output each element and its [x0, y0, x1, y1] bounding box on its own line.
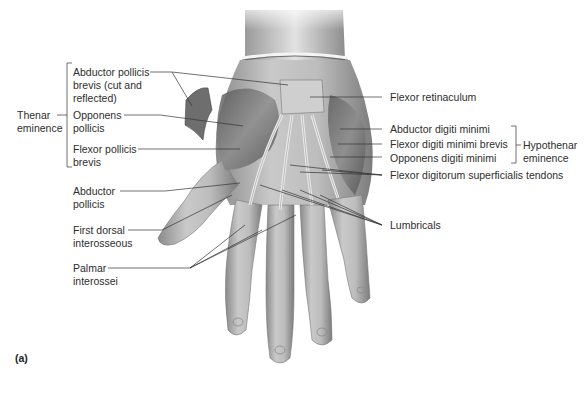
- thumb: [158, 160, 238, 245]
- ring-finger: [300, 205, 332, 345]
- panel-label: (a): [15, 352, 28, 364]
- label-lumbricals: Lumbricals: [390, 219, 441, 232]
- label-opponens-digiti-minimi: Opponens digiti minimi: [390, 152, 496, 165]
- label-abductor-digiti-minimi: Abductor digiti minimi: [390, 123, 490, 136]
- label-palmar-interossei: Palmar interossei: [73, 262, 118, 288]
- index-finger: [225, 200, 262, 335]
- label-hypothenar-eminence: Hypothenar eminence: [523, 139, 577, 165]
- label-thenar-eminence: Thenar eminence: [17, 109, 63, 135]
- label-opponens-pollicis: Opponens pollicis: [73, 109, 121, 135]
- label-abductor-pollicis: Abductor pollicis: [73, 185, 115, 211]
- label-first-dorsal-interosseous: First dorsal interosseous: [73, 224, 133, 250]
- label-flexor-pollicis-brevis: Flexor pollicis brevis: [73, 143, 137, 169]
- middle-finger: [266, 205, 294, 363]
- label-flexor-digitorum-superficialis-tendons: Flexor digitorum superficialis tendons: [390, 169, 563, 182]
- label-flexor-digiti-minimi-brevis: Flexor digiti minimi brevis: [390, 138, 508, 151]
- label-flexor-retinaculum: Flexor retinaculum: [390, 91, 476, 104]
- reflected-abductor: [185, 88, 212, 140]
- label-abductor-pollicis-brevis: Abductor pollicis brevis (cut and reflec…: [73, 66, 149, 105]
